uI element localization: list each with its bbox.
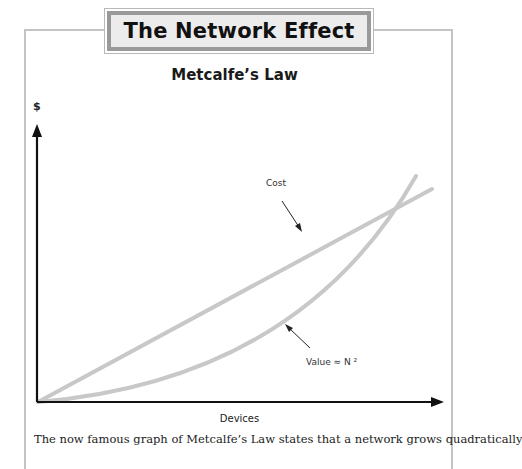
cost-pointer-arrow <box>282 201 299 227</box>
value-pointer-arrow <box>289 328 310 348</box>
body-paragraph: The now famous graph of Metcalfe’s Law s… <box>34 432 522 446</box>
y-axis-label: $ <box>33 100 41 113</box>
value-annotation: Value ≈ N ² <box>306 357 357 367</box>
cost-arrowhead-icon <box>295 223 302 232</box>
x-axis-arrowhead-icon <box>431 397 444 407</box>
cost-line <box>38 189 432 402</box>
cost-annotation: Cost <box>266 178 286 188</box>
y-axis-arrowhead-icon <box>32 124 42 137</box>
x-axis-label: Devices <box>0 413 469 424</box>
value-curve <box>38 176 416 402</box>
